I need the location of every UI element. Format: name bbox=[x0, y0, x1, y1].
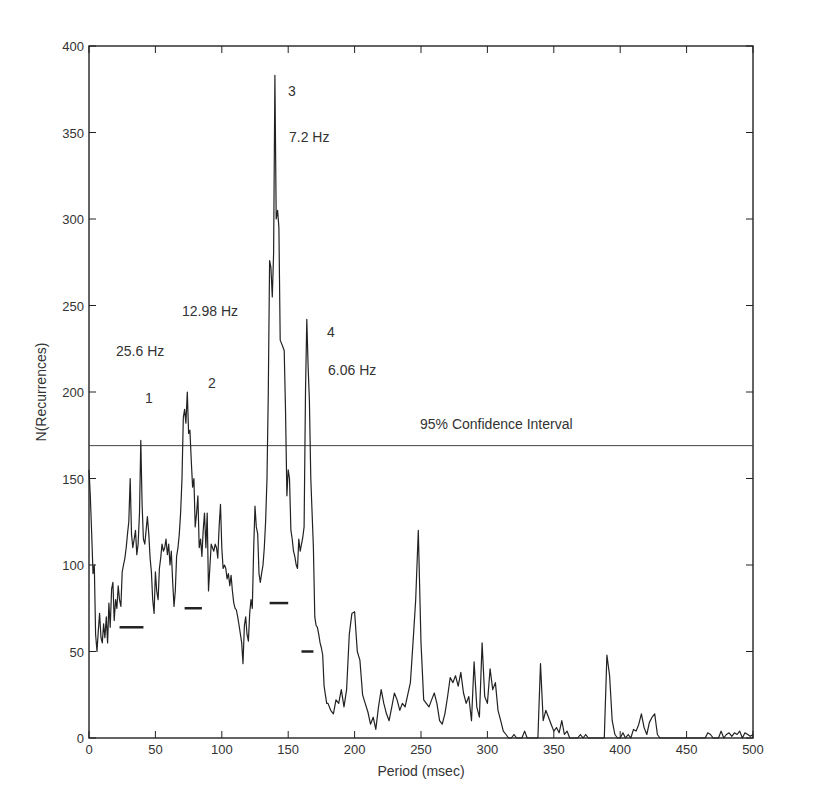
y-tick-label: 300 bbox=[62, 212, 84, 227]
x-tick-label: 0 bbox=[85, 742, 92, 757]
x-axis-label: Period (msec) bbox=[377, 763, 464, 779]
y-tick-label: 50 bbox=[70, 645, 84, 660]
recurrence-trace bbox=[89, 75, 753, 738]
y-tick-label: 100 bbox=[62, 558, 84, 573]
x-tick-label: 200 bbox=[344, 742, 366, 757]
x-tick-label: 450 bbox=[676, 742, 698, 757]
confidence-interval-label: 95% Confidence Interval bbox=[420, 416, 573, 432]
peak-1-label: 1 bbox=[145, 390, 153, 406]
y-tick-label: 350 bbox=[62, 126, 84, 141]
y-tick-label: 250 bbox=[62, 299, 84, 314]
x-tick-label: 150 bbox=[277, 742, 299, 757]
peak-3-frequency: 7.2 Hz bbox=[289, 129, 329, 145]
y-axis-ticks: 050100150200250300350400 bbox=[62, 39, 753, 746]
y-tick-label: 400 bbox=[62, 39, 84, 54]
peak-2-frequency: 12.98 Hz bbox=[182, 303, 238, 319]
peak-4-label: 4 bbox=[327, 324, 335, 340]
recurrence-chart: 050100150200250300350400 050100150200250… bbox=[0, 0, 825, 803]
y-tick-label: 0 bbox=[77, 731, 84, 746]
peak-1-frequency: 25.6 Hz bbox=[116, 343, 164, 359]
peak-3-label: 3 bbox=[288, 83, 296, 99]
x-tick-label: 250 bbox=[410, 742, 432, 757]
peak-2-label: 2 bbox=[208, 375, 216, 391]
x-tick-label: 300 bbox=[477, 742, 499, 757]
x-tick-label: 500 bbox=[742, 742, 764, 757]
y-axis-label: N(Recurrences) bbox=[33, 343, 49, 442]
peak-4-frequency: 6.06 Hz bbox=[328, 362, 376, 378]
y-tick-label: 150 bbox=[62, 472, 84, 487]
x-tick-label: 100 bbox=[211, 742, 233, 757]
x-tick-label: 350 bbox=[543, 742, 565, 757]
y-tick-label: 200 bbox=[62, 385, 84, 400]
x-tick-label: 50 bbox=[148, 742, 162, 757]
x-tick-label: 400 bbox=[609, 742, 631, 757]
period-range-bars bbox=[120, 603, 314, 651]
